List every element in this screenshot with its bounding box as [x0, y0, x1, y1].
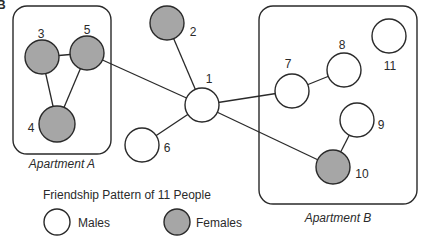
diagram-svg: B Apartment AApartment B 1234567891011 F…	[0, 0, 423, 240]
edge-1-10	[202, 105, 333, 167]
legend: Males Females	[44, 209, 242, 235]
person-node-7: 7	[275, 57, 309, 108]
node-label: 5	[84, 23, 91, 37]
female-circle	[316, 150, 350, 184]
male-circle	[185, 88, 219, 122]
person-node-9: 9	[340, 103, 385, 137]
node-label: 3	[38, 27, 45, 41]
node-label: 1	[206, 72, 213, 86]
female-circle	[39, 106, 75, 142]
female-circle	[150, 6, 184, 40]
male-circle	[125, 128, 159, 162]
apartment-b-label: Apartment B	[304, 211, 372, 225]
female-circle	[70, 36, 104, 70]
node-label: 10	[355, 167, 369, 181]
person-node-2: 2	[150, 6, 197, 40]
panel-letter: B	[0, 0, 6, 12]
female-circle	[25, 40, 59, 74]
male-circle	[372, 19, 406, 53]
node-label: 8	[339, 38, 346, 52]
person-node-4: 4	[28, 106, 75, 142]
node-label: 2	[190, 25, 197, 39]
female-legend-swatch	[164, 209, 190, 235]
node-label: 11	[384, 59, 397, 73]
male-circle	[275, 74, 309, 108]
legend-males-label: Males	[78, 216, 110, 230]
person-node-6: 6	[125, 128, 171, 162]
friendship-diagram: B Apartment AApartment B 1234567891011 F…	[0, 0, 423, 240]
person-node-3: 3	[25, 27, 59, 74]
person-node-10: 10	[316, 150, 369, 184]
person-node-11: 11	[372, 19, 406, 73]
legend-females-label: Females	[196, 216, 242, 230]
node-label: 9	[378, 118, 385, 132]
node-label: 4	[28, 121, 35, 135]
apartment-a-label: Apartment A	[28, 157, 95, 171]
male-legend-swatch	[44, 209, 70, 235]
node-label: 6	[164, 141, 171, 155]
person-node-8: 8	[327, 38, 361, 87]
person-node-1: 1	[185, 72, 219, 122]
node-label: 7	[285, 57, 292, 71]
person-node-5: 5	[70, 23, 104, 70]
diagram-title: Friendship Pattern of 11 People	[43, 188, 211, 202]
male-circle	[327, 53, 361, 87]
male-circle	[340, 103, 374, 137]
edge-5-1	[87, 53, 202, 105]
